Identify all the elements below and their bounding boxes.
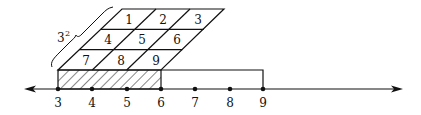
brace-label: 3 2 (57, 29, 70, 45)
grid-cell-4: 4 (104, 33, 112, 47)
grid-cell-6: 6 (173, 33, 181, 47)
tick-dot-4 (90, 87, 95, 92)
grid-cell-9: 9 (152, 54, 160, 68)
tick-label-3: 3 (54, 96, 62, 110)
grid-cell-7: 7 (82, 54, 90, 68)
open-segment-6-to-9 (161, 70, 263, 89)
tick-label-5: 5 (123, 96, 131, 110)
tick-label-4: 4 (88, 96, 96, 110)
tick-dot-8 (228, 87, 233, 92)
tick-label-9: 9 (259, 96, 267, 110)
square-number-diagram: 1 2 3 4 5 6 7 8 9 3 2 (0, 0, 421, 115)
number-line: 3 4 5 6 7 8 9 (24, 86, 403, 111)
hatched-segment-3-to-6 (58, 70, 161, 89)
grid-cell-3: 3 (194, 13, 202, 27)
grid-cell-1: 1 (125, 13, 133, 27)
grid-cell-2: 2 (159, 13, 167, 27)
brace-label-exponent: 2 (65, 29, 70, 38)
tick-dot-3 (56, 87, 61, 92)
tick-label-7: 7 (191, 96, 199, 110)
brace-label-base: 3 (57, 31, 65, 45)
tick-dot-5 (125, 87, 130, 92)
grid-cell-labels: 1 2 3 4 5 6 7 8 9 (82, 13, 202, 68)
grid-cell-5: 5 (138, 33, 146, 47)
diagram-canvas: 1 2 3 4 5 6 7 8 9 3 2 (0, 0, 421, 115)
tick-dot-9 (261, 87, 266, 92)
tick-label-8: 8 (226, 96, 234, 110)
tick-labels: 3 4 5 6 7 8 9 (54, 96, 267, 110)
tick-dot-7 (193, 87, 198, 92)
tick-label-6: 6 (157, 96, 165, 110)
grid-cell-8: 8 (117, 54, 125, 68)
tick-dot-6 (159, 87, 164, 92)
